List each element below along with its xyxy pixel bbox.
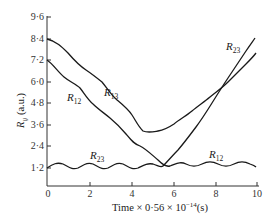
- x-tick-label: 4: [130, 188, 135, 199]
- label-r12-bottom: R12: [208, 148, 223, 163]
- y-tick-label: 7·2: [31, 54, 44, 65]
- y-tick-label: 8·4: [31, 33, 44, 44]
- curve-r12: [47, 60, 256, 167]
- x-tick-label: 6: [172, 188, 177, 199]
- label-r12: R12: [66, 91, 81, 106]
- curve-r13: [47, 39, 256, 132]
- x-tick-label: 8: [214, 188, 219, 199]
- y-tick-labels: 9·6 8·4 7·2 6·0 4·8 3·6 2·4 1·2: [31, 11, 44, 173]
- x-tick-label: 10: [252, 188, 262, 199]
- x-axis-title: Time × 0·56 × 10−14(s): [112, 201, 208, 214]
- label-r23-top: R23: [225, 40, 240, 55]
- y-tick-label: 2·4: [31, 140, 44, 151]
- y-axis-title: Rij (a.u.): [15, 92, 29, 129]
- y-tick-label: 9·6: [31, 11, 44, 22]
- x-tick-labels: 0 2 4 6 8 10: [46, 188, 263, 199]
- chart-canvas: 9·6 8·4 7·2 6·0 4·8 3·6 2·4 1·2 0 2 4 6 …: [0, 0, 276, 222]
- x-ticks: [90, 182, 257, 186]
- label-r13: R13: [103, 86, 118, 101]
- x-tick-label: 2: [88, 188, 93, 199]
- y-tick-label: 6·0: [31, 76, 44, 87]
- label-r23-bottom: R23: [89, 149, 104, 164]
- y-tick-label: 3·6: [31, 119, 44, 130]
- y-tick-label: 1·2: [31, 162, 44, 173]
- x-tick-label: 0: [46, 188, 51, 199]
- y-tick-label: 4·8: [31, 97, 44, 108]
